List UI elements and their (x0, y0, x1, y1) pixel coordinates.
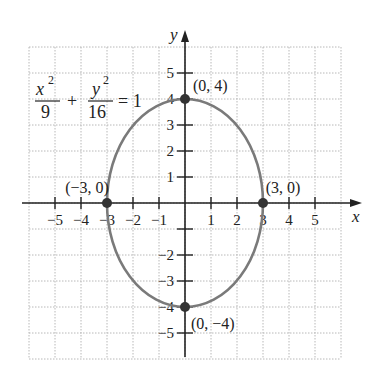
x-tick-label: −2 (125, 212, 141, 228)
y-axis-arrow-icon (181, 30, 189, 42)
svg-text:16: 16 (88, 102, 106, 122)
svg-text:x: x (35, 79, 44, 99)
x-tick-label: 2 (233, 212, 241, 228)
x-tick-label: −1 (151, 212, 167, 228)
x-tick-label: 1 (207, 212, 215, 228)
point-label: (3, 0) (266, 179, 301, 197)
y-tick-label: −3 (158, 273, 174, 289)
x-axis-label: x (351, 207, 360, 226)
point-marker (258, 198, 268, 208)
y-tick-label: −5 (158, 325, 174, 341)
x-tick-label: 5 (311, 212, 319, 228)
point-label: (0, −4) (191, 315, 235, 333)
y-axis-label: y (168, 25, 178, 44)
point-marker (180, 94, 190, 104)
svg-text:2: 2 (103, 73, 109, 87)
point-label: (0, 4) (193, 77, 228, 95)
svg-text:9: 9 (41, 102, 50, 122)
x-tick-label: −5 (47, 212, 63, 228)
point-label: (−3, 0) (65, 179, 109, 197)
svg-text:2: 2 (48, 73, 54, 87)
point-marker (102, 198, 112, 208)
svg-text:= 1: = 1 (118, 91, 142, 111)
svg-text:+: + (67, 91, 77, 111)
y-tick-label: 2 (167, 143, 175, 159)
point-marker (180, 302, 190, 312)
equation-label: x 2 9 + y 2 16 = 1 (35, 73, 142, 122)
y-tick-label: 3 (167, 117, 175, 133)
x-tick-label: 4 (285, 212, 293, 228)
ellipse-graph: x y −5−4−3−2−11234554321−2−3−4−5 (0, 4)(… (0, 0, 383, 373)
svg-text:y: y (90, 79, 100, 99)
x-axis-arrow-icon (350, 199, 362, 207)
y-tick-label: 1 (167, 169, 175, 185)
y-tick-label: −2 (158, 247, 174, 263)
x-tick-label: −4 (73, 212, 89, 228)
y-tick-label: 5 (167, 65, 175, 81)
